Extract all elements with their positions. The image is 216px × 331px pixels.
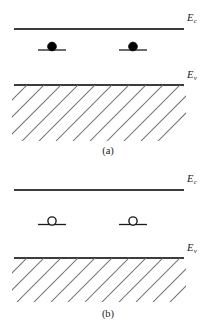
- panel-a-electron-2: [119, 42, 147, 51]
- figure-root: Ec Ev (a) Ec Ev (b): [0, 0, 216, 331]
- panel-b-conduction-band-label: Ec: [187, 174, 197, 185]
- panel-a-caption: (a): [0, 146, 216, 157]
- panel-a-ec-symbol: E: [187, 12, 194, 23]
- panel-b-hole-2-circle: [129, 217, 137, 225]
- panel-a-ev-subscript: v: [194, 74, 197, 82]
- panel-b-ec-subscript: c: [194, 178, 197, 186]
- panel-b-hole-1: [38, 217, 66, 225]
- band-diagram-canvas: [0, 0, 216, 331]
- panel-b-ev-symbol: E: [187, 242, 194, 253]
- panel-a: [0, 29, 214, 141]
- panel-a-conduction-band-label: Ec: [187, 13, 197, 24]
- panel-a-hatch-region: [0, 85, 214, 141]
- panel-a-valence-band-label: Ev: [187, 70, 197, 81]
- panel-a-electron-1: [38, 42, 66, 51]
- panel-b: [0, 190, 214, 302]
- panel-b-hole-2: [119, 217, 147, 225]
- panel-b-valence-band-label: Ev: [187, 243, 197, 254]
- panel-a-electron-1-dot: [48, 42, 57, 51]
- panel-b-caption: (b): [0, 309, 216, 320]
- panel-b-ev-subscript: v: [194, 247, 197, 255]
- panel-b-hatch-region: [0, 258, 214, 302]
- panel-b-ec-symbol: E: [187, 173, 194, 184]
- panel-b-hole-1-circle: [48, 217, 56, 225]
- panel-a-ev-symbol: E: [187, 69, 194, 80]
- panel-a-ec-subscript: c: [194, 17, 197, 25]
- panel-a-electron-2-dot: [129, 42, 138, 51]
